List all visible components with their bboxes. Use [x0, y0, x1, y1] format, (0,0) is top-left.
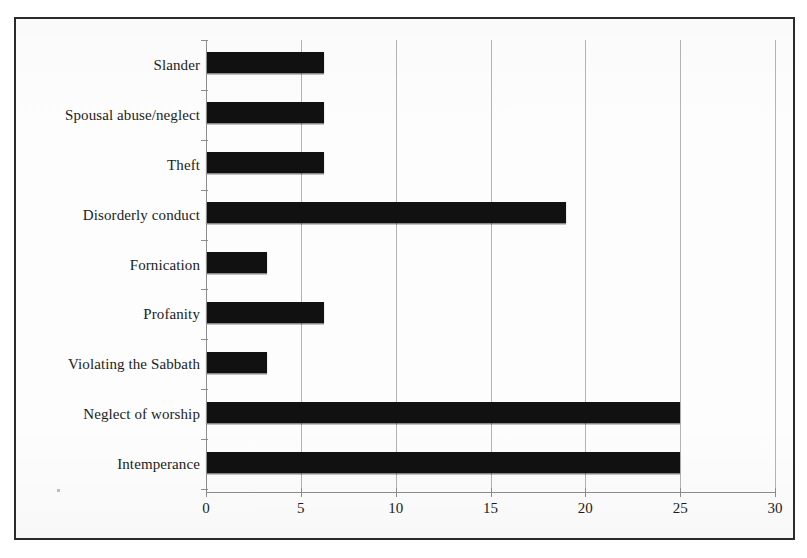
- category-label: Neglect of worship: [20, 406, 200, 423]
- chart-page: SlanderSpousal abuse/neglectTheftDisorde…: [0, 0, 807, 558]
- category-label: Violating the Sabbath: [20, 356, 200, 373]
- x-axis-tick-label: 10: [388, 500, 403, 517]
- x-axis-tick-label: 0: [202, 500, 210, 517]
- y-axis-tick: [201, 289, 208, 290]
- category-label: Slander: [20, 57, 200, 74]
- bar: [206, 302, 324, 323]
- y-axis-tick: [201, 339, 208, 340]
- category-label: Disorderly conduct: [20, 207, 200, 224]
- y-axis-tick: [201, 140, 208, 141]
- y-axis-tick: [201, 240, 208, 241]
- chart-frame: SlanderSpousal abuse/neglectTheftDisorde…: [14, 17, 795, 540]
- x-axis-tick: [396, 488, 397, 497]
- scan-speck: [57, 489, 60, 492]
- x-axis-tick: [491, 488, 492, 497]
- x-axis-tick: [301, 488, 302, 497]
- x-axis-line: [206, 492, 776, 493]
- y-axis-tick: [201, 90, 208, 91]
- bar: [206, 152, 324, 173]
- x-axis-tick-label: 5: [297, 500, 305, 517]
- x-axis-tick-label: 15: [483, 500, 498, 517]
- category-label: Profanity: [20, 306, 200, 323]
- bar: [206, 52, 324, 73]
- x-axis-tick-label: 25: [673, 500, 688, 517]
- y-axis-tick: [201, 190, 208, 191]
- y-axis-tick: [201, 40, 208, 41]
- x-axis-tick: [775, 488, 776, 497]
- category-label: Spousal abuse/neglect: [20, 107, 200, 124]
- x-axis-tick-labels: 051015202530: [206, 500, 776, 526]
- bar: [206, 452, 680, 473]
- plot-area: [206, 40, 775, 489]
- bar: [206, 102, 324, 123]
- x-axis-tick-label: 20: [578, 500, 593, 517]
- category-label: Intemperance: [20, 456, 200, 473]
- x-axis-tick-label: 30: [768, 500, 783, 517]
- gridline-30: [775, 40, 776, 489]
- category-label: Fornication: [20, 257, 200, 274]
- x-axis-tick: [680, 488, 681, 497]
- x-axis-tick: [585, 488, 586, 497]
- y-axis-tick: [201, 389, 208, 390]
- y-axis-line: [206, 40, 207, 492]
- bar: [206, 202, 566, 223]
- y-axis-category-labels: SlanderSpousal abuse/neglectTheftDisorde…: [16, 40, 200, 489]
- y-axis-tick: [201, 439, 208, 440]
- gridline-25: [680, 40, 681, 489]
- category-label: Theft: [20, 157, 200, 174]
- bar: [206, 402, 680, 423]
- x-axis-tick: [206, 488, 207, 497]
- bar: [206, 352, 267, 373]
- bar: [206, 252, 267, 273]
